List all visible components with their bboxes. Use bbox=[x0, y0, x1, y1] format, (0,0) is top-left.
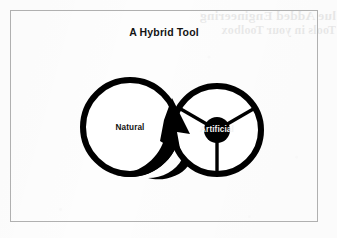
scanned-page: lue Added Engineering Tools in your Tool… bbox=[0, 0, 337, 238]
hybrid-tool-diagram: Natural Artificial bbox=[10, 10, 318, 222]
artificial-label: Artificial bbox=[200, 125, 234, 134]
natural-label: Natural bbox=[116, 123, 145, 132]
